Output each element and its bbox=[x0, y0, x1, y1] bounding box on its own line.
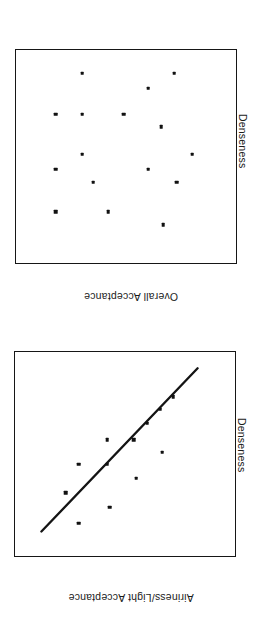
data-point bbox=[122, 112, 125, 115]
data-point bbox=[146, 87, 149, 90]
data-point bbox=[108, 505, 111, 508]
data-point bbox=[64, 491, 67, 494]
data-point bbox=[172, 395, 175, 398]
data-point bbox=[91, 180, 94, 183]
data-point bbox=[145, 422, 148, 425]
data-point bbox=[160, 125, 163, 128]
y-axis-label-overall: Denseness bbox=[237, 114, 249, 168]
data-point bbox=[106, 438, 109, 441]
data-point bbox=[77, 463, 80, 466]
data-point bbox=[146, 168, 149, 171]
plot-area-airiness bbox=[15, 352, 235, 556]
data-point bbox=[54, 210, 57, 213]
plot-frame-overall bbox=[15, 49, 237, 264]
data-point bbox=[80, 72, 83, 75]
data-point bbox=[77, 522, 80, 525]
x-axis-label-overall: Overall Acceptance bbox=[0, 291, 262, 303]
data-point bbox=[161, 450, 164, 453]
chart-panel-airiness: Airiness/Light Acceptance Denseness bbox=[0, 314, 262, 628]
data-point bbox=[132, 438, 135, 441]
data-point bbox=[175, 180, 178, 183]
chart-panel-overall: Overall Acceptance Denseness bbox=[0, 0, 262, 314]
data-point bbox=[107, 210, 110, 213]
data-point bbox=[80, 153, 83, 156]
data-point bbox=[54, 112, 57, 115]
data-point bbox=[106, 463, 109, 466]
plot-area-overall bbox=[16, 50, 236, 263]
data-point bbox=[80, 112, 83, 115]
data-point bbox=[173, 72, 176, 75]
y-axis-label-airiness: Denseness bbox=[236, 418, 248, 472]
trendline-airiness bbox=[15, 352, 235, 556]
plot-frame-airiness bbox=[14, 351, 236, 557]
scanned-figure: Airiness/Light Acceptance Denseness Over… bbox=[0, 0, 262, 628]
data-point bbox=[162, 223, 165, 226]
data-point bbox=[54, 168, 57, 171]
data-point bbox=[190, 153, 193, 156]
x-axis-label-airiness: Airiness/Light Acceptance bbox=[0, 592, 262, 604]
data-point bbox=[134, 477, 137, 480]
data-point bbox=[159, 407, 162, 410]
